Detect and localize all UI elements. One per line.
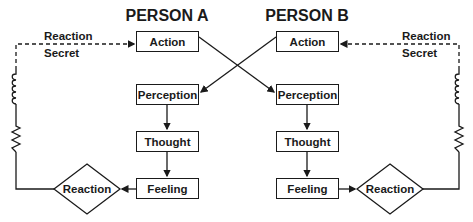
node-b-action: Action <box>276 31 339 52</box>
person-b-title: PERSON B <box>265 7 349 25</box>
node-b-feeling: Feeling <box>276 178 339 199</box>
node-b-perception: Perception <box>276 84 339 105</box>
coil-b <box>455 70 459 104</box>
node-b-reaction: Reaction <box>366 183 415 195</box>
loop-b-label-reaction: Reaction <box>402 30 451 42</box>
node-a-thought: Thought <box>136 131 199 152</box>
node-a-feeling: Feeling <box>136 178 199 199</box>
resistor-a <box>12 104 20 152</box>
person-a-title: PERSON A <box>126 7 209 25</box>
node-b-thought: Thought <box>276 131 339 152</box>
arrow-a-action-to-b-perception <box>199 37 274 92</box>
node-a-perception: Perception <box>136 84 199 105</box>
loop-a-label-secret: Secret <box>44 47 79 59</box>
node-a-action: Action <box>136 31 199 52</box>
resistor-b <box>455 104 463 152</box>
arrow-b-action-to-a-perception <box>201 37 276 92</box>
loop-a-label-reaction: Reaction <box>44 30 93 42</box>
coil-a <box>12 70 16 104</box>
node-a-reaction: Reaction <box>63 183 112 195</box>
loop-b-label-secret: Secret <box>402 47 437 59</box>
